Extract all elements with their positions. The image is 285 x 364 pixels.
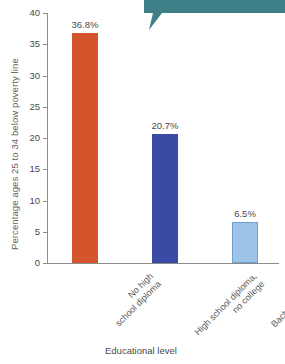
y-tick-label: 25 bbox=[18, 102, 40, 112]
y-tick bbox=[43, 232, 47, 233]
y-tick-label: 40 bbox=[18, 8, 40, 18]
bar-value-label: 20.7% bbox=[140, 120, 190, 131]
bar-bachelors-degree-or-higher[interactable] bbox=[232, 222, 258, 263]
y-tick-label: 5 bbox=[18, 227, 40, 237]
bar-chart: Percentage ages 25 to 34 below poverty l… bbox=[0, 0, 285, 364]
y-tick bbox=[43, 107, 47, 108]
bar-no-high-school-diploma[interactable] bbox=[72, 33, 98, 263]
y-tick-label: 35 bbox=[18, 39, 40, 49]
y-tick-label: 15 bbox=[18, 164, 40, 174]
y-tick bbox=[43, 44, 47, 45]
y-tick-label: 10 bbox=[18, 196, 40, 206]
bar-value-label: 6.5% bbox=[220, 208, 270, 219]
y-axis-title: Percentage ages 25 to 34 below poverty l… bbox=[9, 58, 20, 250]
y-tick bbox=[43, 169, 47, 170]
y-tick bbox=[43, 263, 47, 264]
y-tick-label: 30 bbox=[18, 71, 40, 81]
category-line: Bachelor's degree bbox=[269, 271, 285, 329]
speech-bubble-tail-icon bbox=[140, 0, 285, 30]
y-tick-label: 0 bbox=[18, 258, 40, 268]
x-axis-line bbox=[47, 263, 279, 264]
x-axis-title: Educational level bbox=[105, 345, 177, 356]
category-line: High school diploma, bbox=[192, 271, 258, 337]
x-category-label-3: Bachelor's degree or higher bbox=[269, 271, 285, 338]
y-tick bbox=[43, 13, 47, 14]
y-tick bbox=[43, 201, 47, 202]
x-category-label-2: High school diploma, no college bbox=[192, 271, 267, 346]
x-category-label-1: No high school diploma bbox=[106, 271, 164, 329]
bar-value-label: 36.8% bbox=[60, 19, 110, 30]
y-tick bbox=[43, 76, 47, 77]
y-axis-line bbox=[47, 13, 48, 264]
y-tick-label: 20 bbox=[18, 133, 40, 143]
y-tick bbox=[43, 138, 47, 139]
bar-high-school-diploma-no-college[interactable] bbox=[152, 134, 178, 263]
